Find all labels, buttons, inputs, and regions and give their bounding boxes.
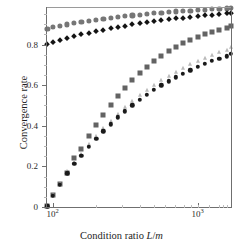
- data-point: [195, 65, 199, 69]
- data-point: [137, 98, 141, 102]
- x-minor-tick: [175, 205, 176, 208]
- data-point: [94, 137, 98, 141]
- data-point: [79, 154, 83, 158]
- y-minor-tick: [44, 116, 47, 117]
- x-axis-label: Condition ratio L/m: [0, 230, 243, 241]
- x-minor-tick: [184, 205, 185, 208]
- y-tick-label: 0: [0, 202, 38, 212]
- y-minor-tick: [44, 156, 47, 157]
- data-point: [123, 109, 127, 113]
- y-minor-tick: [44, 136, 47, 137]
- y-axis-label: Convergence rate: [18, 38, 29, 188]
- data-point: [50, 193, 54, 197]
- y-minor-tick: [44, 34, 47, 35]
- x-tick-label: 103: [191, 209, 203, 219]
- y-minor-tick: [44, 105, 47, 106]
- y-minor-tick: [44, 14, 47, 15]
- y-tick-mark: [42, 166, 47, 167]
- y-minor-tick: [44, 75, 47, 76]
- data-point: [210, 59, 214, 63]
- data-point: [116, 115, 120, 119]
- x-minor-tick: [209, 205, 210, 208]
- x-minor-tick: [122, 205, 123, 208]
- data-point: [166, 79, 170, 83]
- figure: 00.20.40.60.8 102103 Condition ratio L/m…: [0, 0, 243, 250]
- y-tick-mark: [42, 207, 47, 208]
- data-point: [188, 68, 192, 72]
- x-minor-tick: [219, 205, 220, 208]
- data-point: [152, 88, 156, 92]
- data-point: [130, 103, 134, 107]
- y-tick-mark: [42, 126, 47, 127]
- x-minor-tick: [165, 205, 166, 208]
- data-point: [58, 183, 62, 187]
- x-minor-tick: [198, 205, 199, 208]
- data-point: [87, 145, 91, 149]
- data-point: [217, 56, 221, 60]
- data-point: [145, 93, 149, 97]
- y-minor-tick: [44, 187, 47, 188]
- data-point: [101, 129, 105, 133]
- x-minor-tick: [227, 205, 228, 208]
- x-tick-mark: [53, 203, 54, 208]
- data-point: [174, 75, 178, 79]
- y-minor-tick: [44, 146, 47, 147]
- x-axis-label-denominator: m: [155, 230, 163, 241]
- y-tick-mark: [42, 85, 47, 86]
- x-axis-label-prefix: Condition ratio: [80, 230, 147, 241]
- y-minor-tick: [44, 95, 47, 96]
- data-point: [65, 171, 69, 175]
- x-minor-tick: [154, 205, 155, 208]
- axis-frame-top: [46, 7, 232, 8]
- data-point: [72, 162, 76, 166]
- data-point: [108, 122, 112, 126]
- y-minor-tick: [44, 177, 47, 178]
- data-point: [159, 83, 163, 87]
- y-minor-tick: [44, 24, 47, 25]
- x-minor-tick: [140, 205, 141, 208]
- x-minor-tick: [96, 205, 97, 208]
- x-minor-tick: [191, 205, 192, 208]
- y-minor-tick: [44, 55, 47, 56]
- data-point: [181, 71, 185, 75]
- y-minor-tick: [44, 65, 47, 66]
- y-minor-tick: [44, 197, 47, 198]
- axis-frame-left: [46, 7, 47, 208]
- x-minor-tick: [223, 205, 224, 208]
- data-point: [203, 62, 207, 66]
- axis-frame-right: [231, 7, 232, 208]
- y-tick-mark: [42, 45, 47, 46]
- x-tick-label: 102: [47, 209, 59, 219]
